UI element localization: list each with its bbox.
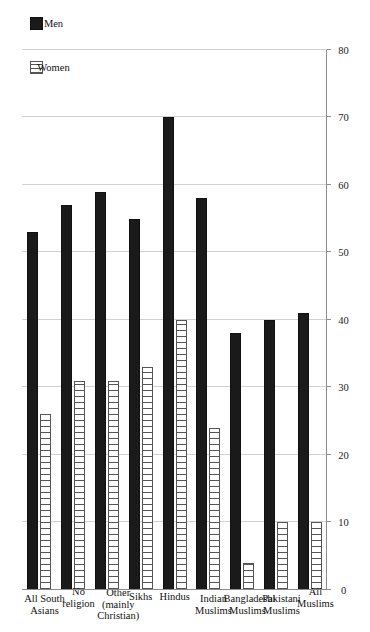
tick-label: 10 <box>329 517 359 528</box>
chart-figure-rotor: Men Women 01020304050607080 All MuslimsP… <box>0 0 370 632</box>
value-axis-line <box>326 50 327 590</box>
legend-label-men: Men <box>44 18 63 29</box>
bar-men <box>95 192 106 590</box>
plot-area: 01020304050607080 All MuslimsPakistani M… <box>22 50 327 590</box>
bar-women <box>209 428 220 590</box>
gridline <box>22 117 327 118</box>
tick-label: 80 <box>329 45 359 56</box>
bar-men <box>129 219 140 590</box>
gridline <box>22 184 327 185</box>
bar-women <box>40 415 51 591</box>
bar-men <box>264 320 275 590</box>
category-label: All South Asians <box>21 593 69 616</box>
bar-women <box>311 523 322 591</box>
tick-label: 60 <box>329 180 359 191</box>
bar-women <box>108 381 119 590</box>
bar-men <box>196 199 207 591</box>
legend-entry-men: Men <box>30 14 59 33</box>
bar-women <box>243 563 254 590</box>
bar-men <box>298 313 309 590</box>
bar-men <box>163 118 174 591</box>
bar-women <box>142 367 153 590</box>
bar-women <box>74 381 85 590</box>
bar-women <box>277 523 288 591</box>
tick-label: 70 <box>329 112 359 123</box>
tick-label: 20 <box>329 450 359 461</box>
tick-label: 40 <box>329 315 359 326</box>
bar-women <box>176 320 187 590</box>
category-axis-line <box>22 589 327 590</box>
bar-men <box>27 232 38 590</box>
bar-men <box>61 205 72 590</box>
legend-swatch-men-icon <box>30 17 43 30</box>
bar-chart-figure: Men Women 01020304050607080 All MuslimsP… <box>0 0 370 632</box>
gridline <box>22 49 327 50</box>
bar-men <box>230 334 241 591</box>
tick-label: 50 <box>329 247 359 258</box>
tick-label: 30 <box>329 382 359 393</box>
